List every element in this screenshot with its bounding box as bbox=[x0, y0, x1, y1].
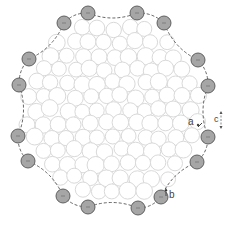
inner-circle bbox=[50, 116, 66, 132]
arrow-c-head-down-icon bbox=[220, 126, 223, 129]
inner-circle bbox=[104, 156, 120, 172]
inner-circle bbox=[175, 141, 192, 158]
inner-circle bbox=[41, 100, 58, 117]
inner-circle bbox=[168, 156, 183, 171]
inner-circle bbox=[36, 143, 51, 158]
inner-circle bbox=[74, 19, 90, 35]
arrow-c-head-up-icon bbox=[220, 111, 223, 114]
inner-circle bbox=[142, 115, 159, 132]
inner-circle bbox=[59, 48, 74, 63]
inner-circle bbox=[26, 128, 43, 145]
arrow-b-head-icon bbox=[165, 188, 168, 191]
inner-circle bbox=[151, 101, 167, 117]
inner-circle bbox=[161, 142, 176, 157]
inner-circle bbox=[160, 35, 175, 50]
inner-circle bbox=[84, 89, 99, 104]
label-a: a bbox=[188, 117, 194, 127]
inner-circle bbox=[52, 61, 67, 76]
inner-circle bbox=[184, 128, 199, 143]
inner-circle bbox=[127, 33, 143, 49]
inner-circle bbox=[75, 182, 90, 197]
inner-circle bbox=[50, 143, 65, 158]
label-b: b bbox=[169, 190, 175, 200]
label-c: c bbox=[214, 115, 219, 124]
arrow-a-head-icon bbox=[197, 124, 199, 126]
inner-circle bbox=[80, 34, 96, 50]
inner-circle bbox=[136, 183, 153, 200]
circle-packing-diagram bbox=[0, 0, 225, 229]
inner-circle bbox=[174, 61, 190, 77]
inner-circle bbox=[96, 34, 111, 49]
inner-circle bbox=[82, 115, 98, 131]
inner-circle bbox=[66, 141, 82, 157]
inner-circle bbox=[173, 115, 190, 132]
inner-circle bbox=[53, 170, 68, 185]
inner-circle bbox=[112, 114, 129, 131]
inner-circle bbox=[158, 115, 173, 130]
inner-circle bbox=[89, 20, 105, 36]
inner-circle bbox=[81, 60, 97, 76]
inner-circle bbox=[67, 168, 82, 183]
inner-circle bbox=[174, 88, 190, 104]
inner-circle bbox=[120, 155, 136, 171]
inner-circle bbox=[104, 184, 119, 199]
inner-circle bbox=[165, 101, 181, 117]
inner-circle bbox=[130, 61, 146, 77]
inner-circle bbox=[112, 87, 128, 103]
inner-circle bbox=[114, 141, 129, 156]
inner-circle bbox=[45, 156, 61, 172]
inner-circle bbox=[119, 182, 136, 199]
inner-circle bbox=[135, 155, 150, 170]
inner-circle bbox=[150, 155, 165, 170]
